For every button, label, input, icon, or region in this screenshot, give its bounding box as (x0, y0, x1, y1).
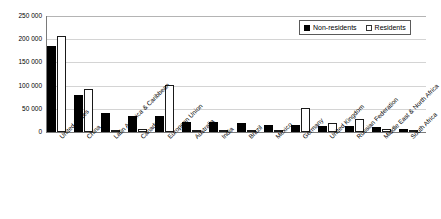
bar-nonresidents (399, 129, 408, 132)
y-tick-label: 250 000 (0, 12, 42, 19)
bar-group (236, 16, 263, 132)
y-tick-label: 0 (0, 128, 42, 135)
bar-group (263, 16, 290, 132)
y-tick-label: 100 000 (0, 82, 42, 89)
x-axis: United StatesChinaLatin America & Caribb… (46, 133, 425, 219)
legend-label-residents: Residents (375, 23, 406, 32)
bar-group (154, 16, 181, 132)
bar-residents (165, 85, 174, 132)
bar-nonresidents (264, 125, 273, 132)
bar-nonresidents (237, 123, 246, 132)
y-tick-label: 200 000 (0, 35, 42, 42)
legend-label-nonresidents: Non-residents (313, 23, 357, 32)
y-axis: 050 000100 000150 000200 000250 000 (0, 0, 44, 219)
legend-swatch-filled-square-icon (304, 25, 310, 31)
bar-residents (57, 36, 66, 133)
bar-nonresidents (101, 113, 110, 132)
chart-legend: Non-residents Residents (299, 20, 411, 35)
legend-swatch-hollow-square-icon (366, 25, 372, 31)
bar-group (208, 16, 235, 132)
bar-nonresidents (47, 46, 56, 132)
legend-item-residents: Residents (366, 23, 406, 32)
y-tick-label: 50 000 (0, 105, 42, 112)
legend-item-nonresidents: Non-residents (304, 23, 357, 32)
y-tick-label: 150 000 (0, 58, 42, 65)
bar-group (100, 16, 127, 132)
bar-group (46, 16, 73, 132)
